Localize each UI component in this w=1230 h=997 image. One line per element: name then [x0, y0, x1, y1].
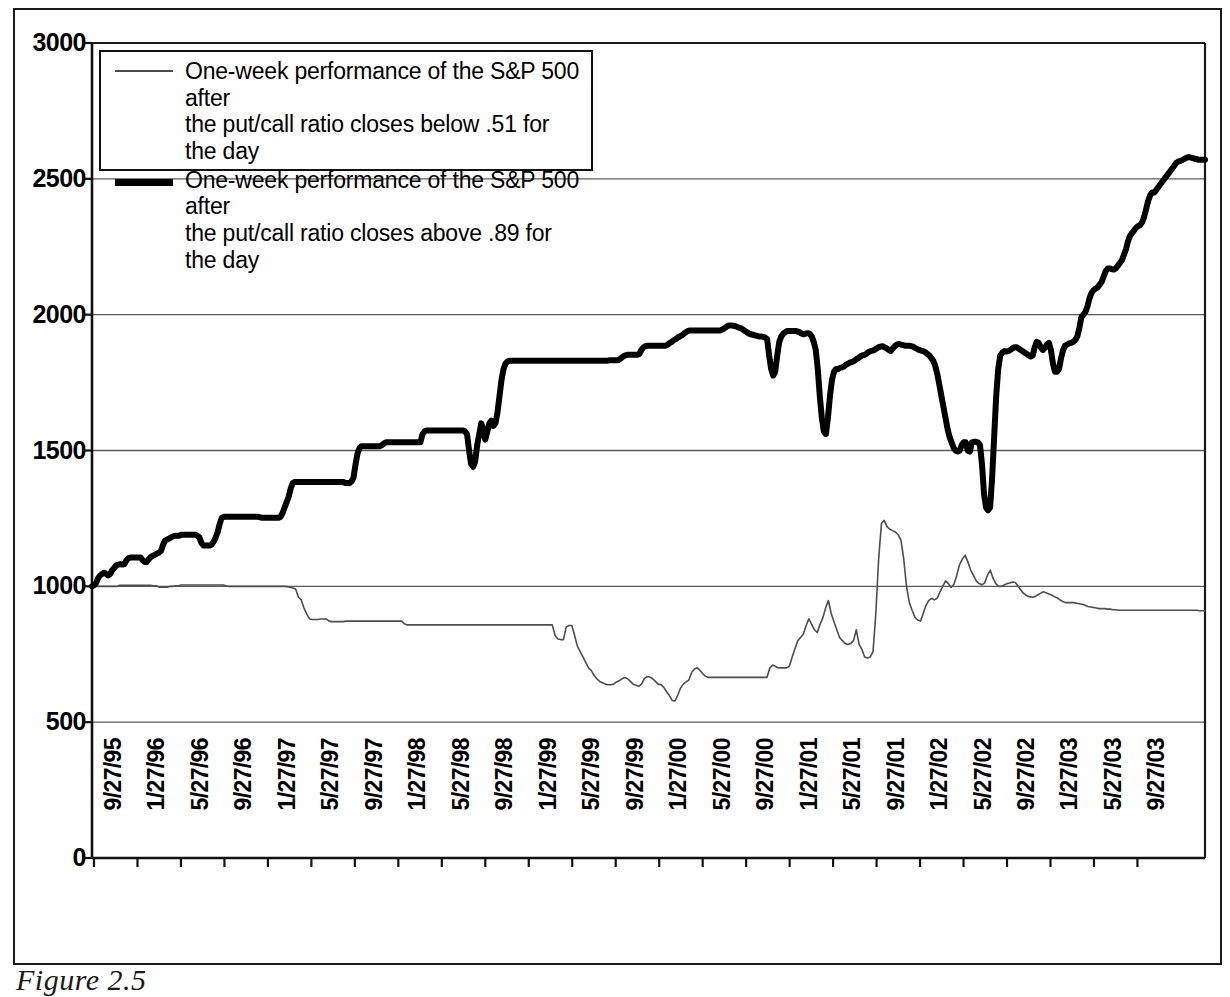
x-axis-tick-label: 1/27/97 [276, 738, 299, 868]
chart-legend: One-week performance of the S&P 500 afte… [99, 50, 593, 171]
x-axis-tick-label: 9/27/99 [624, 738, 647, 868]
x-axis-tick-label: 9/27/95 [102, 738, 125, 868]
x-axis-tick-label: 5/27/98 [450, 738, 473, 868]
legend-entry-above: One-week performance of the S&P 500 afte… [111, 167, 583, 274]
x-axis-tick-label: 5/27/00 [711, 738, 734, 868]
x-axis-tick-label: 5/27/02 [972, 738, 995, 868]
figure-caption: Figure 2.5 [16, 963, 147, 997]
x-axis-tick-label: 9/27/96 [232, 738, 255, 868]
x-axis-tick-label: 1/27/99 [537, 738, 560, 868]
x-axis-tick-label: 5/27/99 [580, 738, 603, 868]
legend-label-below: One-week performance of the S&P 500 afte… [185, 58, 583, 165]
x-axis-tick-label: 9/27/01 [885, 738, 908, 868]
x-axis-tick-label: 1/27/02 [928, 738, 951, 868]
legend-entry-below: One-week performance of the S&P 500 afte… [111, 58, 583, 165]
legend-line-swatch-thin-icon [111, 58, 177, 84]
x-axis-tick-label: 9/27/03 [1145, 738, 1168, 868]
x-axis-tick-label: 1/27/96 [145, 738, 168, 868]
x-axis-tick-label: 1/27/03 [1058, 738, 1081, 868]
x-axis-tick-label: 1/27/01 [798, 738, 821, 868]
legend-line-swatch-thick-icon [111, 167, 177, 193]
x-axis-tick-label: 1/27/00 [667, 738, 690, 868]
legend-label-above: One-week performance of the S&P 500 afte… [185, 167, 583, 274]
x-axis-tick-label: 5/27/97 [319, 738, 342, 868]
x-axis-tick-label: 5/27/96 [189, 738, 212, 868]
x-axis-tick-label: 9/27/98 [493, 738, 516, 868]
x-axis-tick-label: 1/27/98 [406, 738, 429, 868]
x-axis-tick-label: 9/27/02 [1015, 738, 1038, 868]
x-axis-tick-label: 9/27/97 [363, 738, 386, 868]
x-axis-tick-label: 9/27/00 [754, 738, 777, 868]
x-axis-tick-label: 5/27/01 [841, 738, 864, 868]
x-axis-tick-label: 5/27/03 [1102, 738, 1125, 868]
